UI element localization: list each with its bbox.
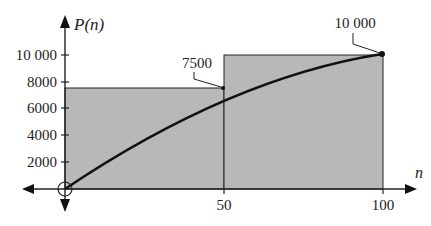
endpoint-dot xyxy=(379,51,385,57)
y-tick-label-8000: 8000 xyxy=(27,74,57,90)
y-tick-label-6000: 6000 xyxy=(27,100,57,116)
y-axis-label: P(n) xyxy=(73,15,105,34)
point-7500-dot xyxy=(221,86,225,90)
annotation-leader-7500 xyxy=(194,72,221,87)
annotation-7500: 7500 xyxy=(182,55,212,71)
y-tick-label-2000: 2000 xyxy=(27,154,57,170)
y-axis-up-arrow-icon xyxy=(60,15,70,28)
x-axis-right-arrow-icon xyxy=(405,184,417,194)
x-axis-left-arrow-icon xyxy=(22,184,34,194)
right-rectangle xyxy=(224,55,383,189)
x-tick-label-100: 100 xyxy=(372,197,395,213)
y-tick-label-4000: 4000 xyxy=(27,127,57,143)
x-axis-label: n xyxy=(415,164,423,181)
y-tick-label-10000: 10 000 xyxy=(16,47,57,63)
y-axis-down-arrow-icon xyxy=(60,199,70,212)
x-tick-label-50: 50 xyxy=(217,197,232,213)
annotation-leader-10000 xyxy=(353,33,380,53)
riemann-sum-chart: P(n) n 10 000 8000 6000 4000 2000 50 100… xyxy=(0,0,431,226)
annotation-10000: 10 000 xyxy=(334,15,375,31)
